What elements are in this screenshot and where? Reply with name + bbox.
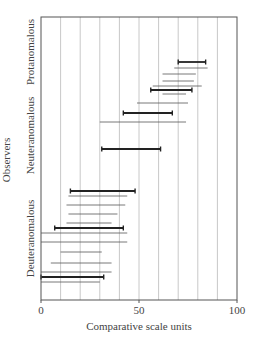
y-axis-title: Observers (0, 138, 12, 183)
group-label-neuteranomalous: Neuteranomalous (24, 97, 36, 175)
range-bar-bold (178, 60, 205, 65)
x-tick-label: 100 (229, 304, 246, 316)
range-bar-bold (123, 111, 172, 116)
group-label-protanomalous: Protanomalous (24, 19, 36, 85)
group-label-deuteranomalous: Deuteranomalous (24, 200, 36, 278)
x-axis-title: Comparative scale units (86, 320, 192, 332)
gridlines (61, 17, 218, 300)
range-bar-bold (151, 88, 192, 93)
range-bar-bold (102, 147, 161, 152)
range-bar-bold (55, 226, 124, 231)
x-axis-ticks: 050100 (38, 300, 246, 316)
range-bar-bold (41, 275, 104, 280)
group-labels: ProtanomalousNeuteranomalousDeuteranomal… (24, 19, 36, 277)
x-tick-label: 0 (38, 304, 44, 316)
range-chart: 050100 Comparative scale units Observers… (0, 0, 257, 342)
x-tick-label: 50 (134, 304, 146, 316)
range-bars (41, 60, 208, 283)
